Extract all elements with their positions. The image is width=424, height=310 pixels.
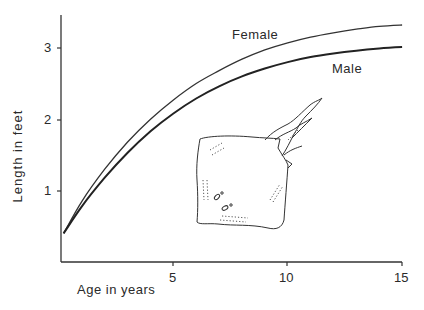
x-axis-title: Age in years [77, 282, 155, 297]
y-axis-title: Length in feet [10, 110, 25, 203]
y-tick-label-1: 1 [44, 183, 51, 198]
growth-chart [0, 0, 424, 310]
female-series-label: Female [232, 27, 278, 42]
x-tick-label-10: 10 [279, 270, 293, 285]
x-tick-label-5: 5 [169, 270, 176, 285]
male-series-label: Male [332, 61, 362, 76]
y-tick-label-3: 3 [44, 40, 51, 55]
skate-illustration-icon [197, 98, 322, 229]
y-tick-label-2: 2 [44, 112, 51, 127]
female-growth-curve [64, 25, 403, 233]
x-tick-label-15: 15 [394, 270, 408, 285]
